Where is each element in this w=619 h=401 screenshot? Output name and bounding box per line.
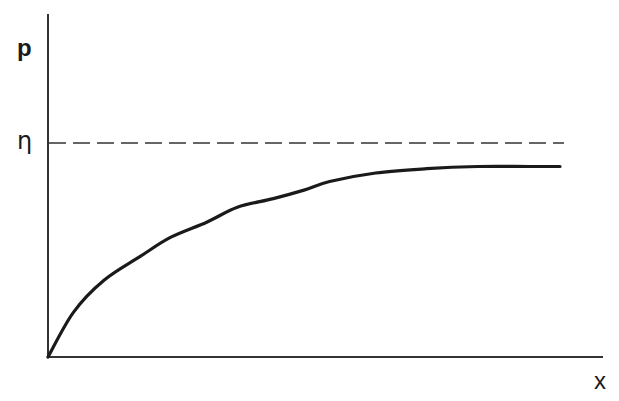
x-axis-label: x bbox=[594, 369, 606, 393]
chart-canvas bbox=[0, 0, 619, 401]
asymptote-label: η bbox=[17, 129, 32, 153]
data-curve bbox=[48, 166, 560, 357]
y-axis-label: p bbox=[17, 36, 32, 60]
